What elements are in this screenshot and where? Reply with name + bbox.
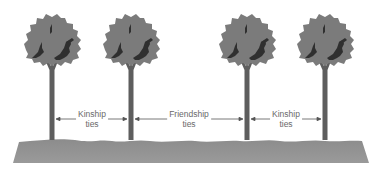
tie-label-line1: Kinship [78,109,106,119]
tie-label-line1: Kinship [272,109,300,119]
friendship-ties-label: Friendship ties [167,109,211,129]
tie-label-line2: ties [78,119,106,129]
tie-label-line1: Friendship [169,109,209,119]
tree-3 [219,14,276,140]
kinship-ties-label-left: Kinship ties [76,109,108,129]
diagram-canvas [0,0,381,173]
tree-2 [103,14,160,140]
kinship-ties-label-right: Kinship ties [270,109,302,129]
tie-label-line2: ties [169,119,209,129]
ground [13,139,369,163]
tree-4 [297,14,354,140]
tie-label-line2: ties [272,119,300,129]
tree-1 [24,14,81,140]
